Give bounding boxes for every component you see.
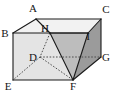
geometry-figure: A B C H I D G E F: [0, 0, 117, 92]
vertex-label-h: H: [41, 22, 49, 34]
vertex-label-i: I: [86, 30, 90, 42]
vertex-label-c: C: [102, 3, 109, 15]
vertex-label-e: E: [5, 80, 12, 92]
vertex-label-f: F: [70, 80, 76, 92]
vertex-label-a: A: [29, 2, 37, 14]
cuboid-diagram-svg: A B C H I D G E F: [0, 0, 117, 92]
vertex-label-d: D: [29, 51, 37, 63]
vertex-label-b: B: [1, 27, 8, 39]
vertex-label-g: G: [102, 51, 110, 63]
